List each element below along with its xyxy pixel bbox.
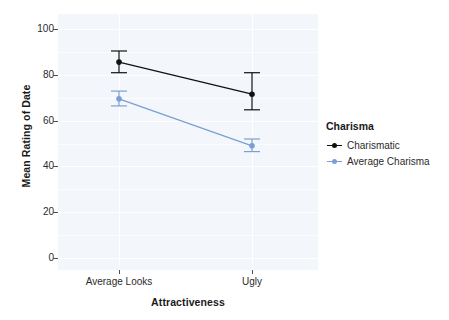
- plot-data-layer: [58, 14, 318, 270]
- series-line-charismatic: [119, 62, 252, 94]
- plot-panel: [58, 14, 318, 270]
- y-tick-label-40: 40: [8, 161, 54, 171]
- x-tick-mark-average-looks: [119, 270, 120, 274]
- y-tick-label-20: 20: [8, 207, 54, 217]
- legend-key-average-charisma-icon: [326, 154, 343, 169]
- legend-item-average-charisma[interactable]: Average Charisma: [326, 154, 446, 169]
- datapoint-average-charisma-ugly: [249, 143, 255, 149]
- x-tick-label-ugly: Ugly: [192, 276, 312, 287]
- series-line-average-charisma: [119, 99, 252, 146]
- legend-title: Charisma: [326, 120, 446, 132]
- y-tick-label-0: 0: [8, 253, 54, 263]
- legend: Charisma Charismatic Average Charisma: [326, 120, 446, 170]
- x-axis-title: Attractiveness: [58, 296, 318, 308]
- legend-item-charismatic[interactable]: Charismatic: [326, 138, 446, 153]
- x-tick-label-average-looks: Average Looks: [59, 276, 179, 287]
- datapoint-charismatic-ugly: [249, 91, 255, 97]
- legend-label-charismatic: Charismatic: [347, 140, 400, 151]
- y-tick-label-60: 60: [8, 116, 54, 126]
- legend-key-charismatic-icon: [326, 138, 343, 153]
- errorbar-charismatic-ugly: [244, 73, 260, 110]
- y-axis-title: Mean Rating of Date: [20, 56, 32, 216]
- datapoint-charismatic-average-looks: [116, 59, 122, 65]
- legend-label-average-charisma: Average Charisma: [347, 156, 430, 167]
- chart-figure: Mean Rating of Date 100 80 60 40 20 0: [0, 0, 449, 320]
- datapoint-average-charisma-average-looks: [116, 96, 122, 102]
- y-tick-label-100: 100: [8, 24, 54, 34]
- y-tick-label-80: 80: [8, 70, 54, 80]
- x-tick-mark-ugly: [252, 270, 253, 274]
